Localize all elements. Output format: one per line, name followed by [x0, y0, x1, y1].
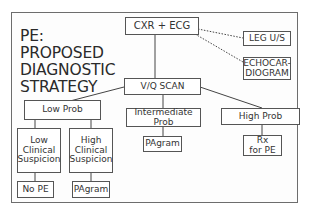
node-label: LEG U/S: [249, 34, 285, 44]
node-no-pe: No PE: [17, 181, 54, 198]
node-label: PAgram: [74, 185, 109, 195]
node-rx-for-pe: Rx for PE: [243, 135, 282, 156]
node-pagram-low: PAgram: [72, 181, 110, 198]
title-line: PROPOSED: [20, 45, 115, 62]
diagram-title: PE: PROPOSED DIAGNOSTIC STRATEGY: [20, 28, 115, 96]
node-label: Suspicion: [18, 155, 61, 165]
node-label: High Prob: [239, 112, 283, 122]
node-high-clinical-suspicion: High Clinical Suspicion: [69, 128, 113, 173]
node-label: Prob: [154, 118, 174, 128]
node-label: No PE: [22, 185, 48, 195]
title-line: DIAGNOSTIC: [20, 62, 115, 79]
node-vq-scan: V/Q SCAN: [124, 78, 201, 95]
node-pagram-intermediate: PAgram: [143, 136, 182, 152]
node-high-prob: High Prob: [221, 108, 300, 125]
node-intermediate-prob: Intermediate Prob: [126, 108, 201, 127]
node-low-prob: Low Prob: [24, 100, 101, 120]
node-leg-us: LEG U/S: [243, 31, 291, 46]
node-label: V/Q SCAN: [140, 82, 184, 92]
node-label: PAgram: [145, 139, 180, 149]
node-label: CXR + ECG: [134, 21, 191, 31]
node-label: for PE: [249, 146, 275, 156]
node-label: Low Prob: [42, 105, 83, 115]
node-echocardiogram: ECHOCAR- DIOGRAM: [243, 57, 291, 80]
node-low-clinical-suspicion: Low Clinical Suspicion: [17, 128, 61, 173]
title-line: STRATEGY: [20, 79, 115, 96]
title-line: PE:: [20, 28, 115, 45]
node-label: Suspicion: [70, 155, 113, 165]
node-label: DIOGRAM: [245, 69, 288, 79]
node-cxr-ecg: CXR + ECG: [125, 17, 199, 35]
